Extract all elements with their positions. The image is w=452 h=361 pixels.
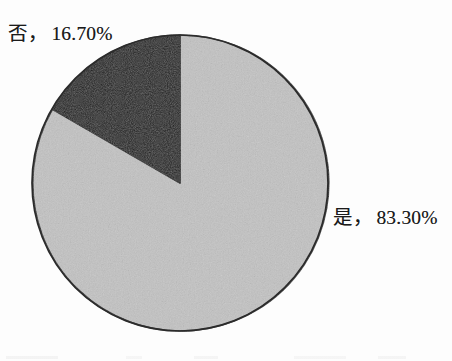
scan-artifact-strip xyxy=(6,356,446,359)
pie-label-no: 否，16.70% xyxy=(8,24,113,44)
pie-label-no-name: 否 xyxy=(8,23,28,44)
pie-label-yes: 是，83.30% xyxy=(333,208,438,228)
pie-chart-figure: 否，16.70% 是，83.30% xyxy=(0,0,452,361)
pie-label-no-comma: ， xyxy=(28,23,48,44)
pie-label-no-value: 16.70% xyxy=(51,23,112,44)
pie-label-yes-value: 83.30% xyxy=(376,207,437,228)
pie-label-yes-name: 是 xyxy=(333,207,353,228)
pie-chart-svg xyxy=(0,0,452,361)
pie-label-yes-comma: ， xyxy=(353,207,373,228)
